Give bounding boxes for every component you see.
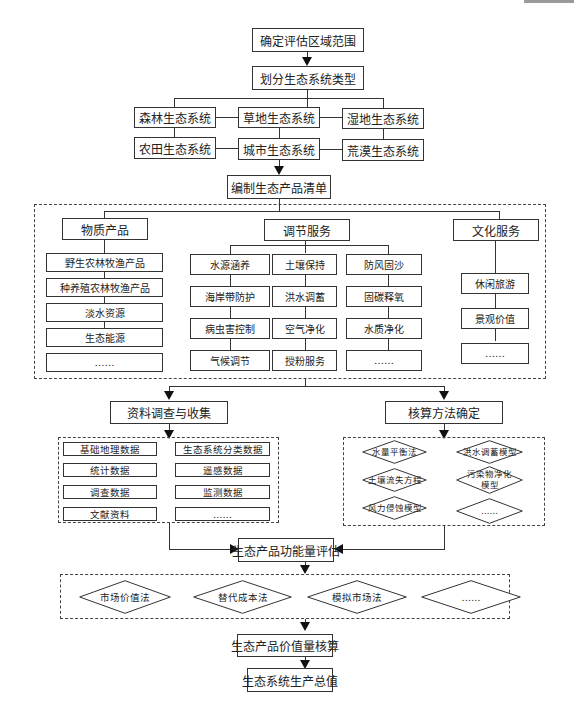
regulating-item: 水源涵养 — [190, 254, 270, 275]
step-value-accounting: 生态产品价值量核算 — [237, 634, 333, 657]
step-function-assessment: 生态产品功能量评估 — [238, 538, 334, 562]
corner-mark — [524, 0, 574, 3]
regulating-item: …… — [346, 350, 422, 371]
data-source-item: 基础地理数据 — [63, 442, 157, 456]
data-source-item: 文献资料 — [63, 507, 157, 521]
material-item: 淡水资源 — [46, 303, 163, 322]
step-define-area: 确定评估区域范围 — [252, 28, 364, 52]
category-regulating-services: 调节服务 — [264, 219, 350, 241]
method-diamond: 土壤流失方程 — [362, 468, 427, 492]
method-diamond: 洪水调蓄模型 — [456, 440, 523, 464]
material-item: 生态能源 — [46, 328, 163, 347]
data-source-item: 统计数据 — [63, 463, 157, 477]
method-diamond: 水量平衡法 — [362, 440, 427, 464]
material-item: …… — [46, 353, 163, 372]
data-source-item: 生态系统分类数据 — [175, 442, 270, 456]
regulating-item: 水质净化 — [346, 318, 422, 339]
material-item: 种养殖农林牧渔产品 — [46, 278, 163, 297]
data-source-item: …… — [175, 507, 270, 521]
data-source-item: 监测数据 — [175, 485, 270, 499]
valuation-diamond: 替代成本法 — [193, 580, 292, 614]
ecosystem-farmland: 农田生态系统 — [134, 137, 216, 159]
step-accounting-methods: 核算方法确定 — [385, 401, 503, 424]
category-cultural-services: 文化服务 — [453, 219, 539, 241]
valuation-diamond: …… — [421, 580, 521, 614]
step-product-inventory: 编制生态产品清单 — [227, 175, 331, 199]
regulating-item: 防风固沙 — [346, 254, 422, 275]
regulating-item: 海岸带防护 — [190, 286, 270, 307]
step-classify-ecosystems: 划分生态系统类型 — [252, 66, 364, 90]
valuation-diamond: 市场价值法 — [79, 580, 171, 614]
ecosystem-grassland: 草地生态系统 — [238, 107, 320, 128]
step-data-collection: 资料调查与收集 — [110, 401, 228, 424]
method-diamond: 风力侵蚀模型 — [362, 496, 427, 520]
data-source-item: 遥感数据 — [175, 463, 270, 477]
regulating-item: 土壤保持 — [272, 254, 337, 275]
regulating-item: 洪水调蓄 — [272, 286, 337, 307]
ecosystem-forest: 森林生态系统 — [134, 107, 216, 128]
regulating-item: 固碳释氧 — [346, 286, 422, 307]
method-diamond: …… — [456, 498, 523, 524]
regulating-item: 气候调节 — [190, 350, 270, 371]
valuation-diamond: 模拟市场法 — [307, 580, 407, 614]
data-source-item: 调查数据 — [63, 485, 157, 499]
ecosystem-desert: 荒漠生态系统 — [342, 139, 424, 161]
step-gep-total: 生态系统生产总值 — [247, 668, 333, 692]
cultural-item: 景观价值 — [461, 308, 529, 329]
regulating-item: 授粉服务 — [272, 350, 337, 371]
method-diamond: 污染物净化 模型 — [456, 466, 523, 494]
regulating-item: 空气净化 — [272, 318, 337, 339]
cultural-item: …… — [461, 343, 529, 364]
ecosystem-wetland: 湿地生态系统 — [342, 108, 424, 129]
ecosystem-urban: 城市生态系统 — [238, 138, 320, 160]
regulating-item: 病虫害控制 — [190, 318, 270, 339]
material-item: 野生农林牧渔产品 — [46, 253, 163, 272]
category-material-products: 物质产品 — [62, 218, 148, 240]
cultural-item: 休闲旅游 — [461, 273, 529, 294]
